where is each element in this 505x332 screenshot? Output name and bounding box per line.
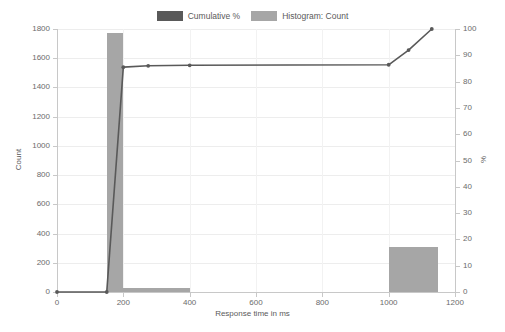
y-axis-right-tick-mark	[456, 82, 460, 83]
y-axis-right-tick-label: 30	[463, 209, 493, 217]
legend-swatch-cumulative	[157, 11, 183, 21]
pareto-chart: Cumulative %Histogram: Count 02004006008…	[0, 0, 505, 332]
x-axis-title: Response time in ms	[0, 309, 505, 318]
y-axis-left-tick-label: 200	[6, 259, 50, 267]
x-axis-tick-label: 1200	[435, 299, 475, 307]
legend-label-0: Cumulative %	[188, 11, 240, 21]
x-axis-tick-label: 800	[302, 299, 342, 307]
y-axis-right-tick-label: 70	[463, 104, 493, 112]
y-axis-right-tick-mark	[456, 266, 460, 267]
y-axis-right-tick-mark	[456, 29, 460, 30]
x-axis-tick-mark	[123, 293, 124, 297]
chart-legend: Cumulative %Histogram: Count	[0, 11, 505, 21]
legend-swatch-histogram	[251, 11, 277, 21]
y-axis-right-tick-mark	[456, 292, 460, 293]
cumulative-line	[57, 29, 455, 292]
y-axis-right-tick-label: 100	[463, 25, 493, 33]
cumulative-line-marker[interactable]	[430, 27, 434, 31]
legend-entry-0[interactable]: Cumulative %	[157, 11, 240, 21]
y-axis-right-tick-mark	[456, 55, 460, 56]
y-axis-right-tick-mark	[456, 213, 460, 214]
x-axis-tick-label: 400	[170, 299, 210, 307]
cumulative-line-path	[57, 29, 432, 292]
x-axis-tick-mark	[455, 293, 456, 297]
x-axis-tick-label: 600	[236, 299, 276, 307]
cumulative-line-marker[interactable]	[55, 290, 59, 294]
y-axis-right-tick-label: 40	[463, 183, 493, 191]
y-axis-left-tick-label: 1200	[6, 113, 50, 121]
cumulative-line-marker[interactable]	[121, 65, 125, 69]
y-axis-right-tick-label: 0	[463, 288, 493, 296]
x-axis-tick-label: 200	[103, 299, 143, 307]
y-axis-right-tick-label: 80	[463, 78, 493, 86]
y-axis-left-title: Count	[14, 130, 23, 190]
y-axis-right-tick-mark	[456, 134, 460, 135]
y-axis-left-tick-label: 400	[6, 230, 50, 238]
x-axis-tick-label: 1000	[369, 299, 409, 307]
y-axis-right-tick-mark	[456, 239, 460, 240]
cumulative-line-marker[interactable]	[146, 64, 150, 68]
x-axis-tick-label: 0	[37, 299, 77, 307]
y-axis-right-tick-label: 90	[463, 51, 493, 59]
y-axis-left-tick-label: 0	[6, 288, 50, 296]
y-axis-right-tick-label: 10	[463, 262, 493, 270]
y-axis-left-tick-label: 1800	[6, 25, 50, 33]
cumulative-line-marker[interactable]	[105, 290, 109, 294]
y-axis-left-tick-label: 1400	[6, 83, 50, 91]
y-axis-right-tick-mark	[456, 161, 460, 162]
y-axis-right-title: %	[479, 145, 488, 175]
x-axis-tick-mark	[256, 293, 257, 297]
y-axis-left-tick-label: 600	[6, 200, 50, 208]
x-axis-tick-mark	[322, 293, 323, 297]
cumulative-line-marker[interactable]	[407, 48, 411, 52]
y-axis-right-tick-label: 60	[463, 130, 493, 138]
y-axis-right-tick-mark	[456, 108, 460, 109]
y-axis-right-tick-label: 20	[463, 235, 493, 243]
x-axis-tick-mark	[190, 293, 191, 297]
x-axis-tick-mark	[389, 293, 390, 297]
legend-label-1: Histogram: Count	[282, 11, 348, 21]
cumulative-line-marker[interactable]	[188, 63, 192, 67]
y-axis-left-tick-label: 1600	[6, 54, 50, 62]
y-axis-right-tick-mark	[456, 187, 460, 188]
legend-entry-1[interactable]: Histogram: Count	[251, 11, 348, 21]
cumulative-line-marker[interactable]	[387, 63, 391, 67]
